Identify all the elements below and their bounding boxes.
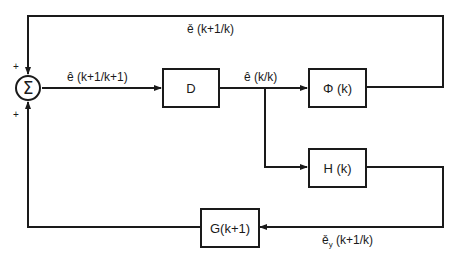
block-g-label: G(k+1) (210, 221, 250, 236)
block-d-label: D (186, 81, 195, 96)
signal-d-output: ê (k/k) (244, 70, 277, 84)
sum-sign-top: + (13, 62, 19, 72)
sum-sign-bottom: + (13, 110, 19, 120)
signal-h-output-base: ě (322, 233, 329, 247)
signal-h-output-rest: (k+1/k) (333, 233, 373, 247)
block-phi-label: Φ (k) (323, 81, 352, 96)
block-h-label: H (k) (323, 161, 351, 176)
block-d: D (162, 68, 220, 108)
summing-junction: Σ (15, 75, 41, 101)
signal-sum-output: ê (k+1/k+1) (67, 70, 128, 84)
signal-feedback-top: ě (k+1/k) (187, 22, 234, 36)
block-phi: Φ (k) (308, 68, 367, 108)
block-h: H (k) (308, 148, 367, 188)
block-g: G(k+1) (200, 208, 260, 248)
signal-h-output: ěy (k+1/k) (322, 233, 373, 252)
sigma-icon: Σ (23, 78, 34, 98)
